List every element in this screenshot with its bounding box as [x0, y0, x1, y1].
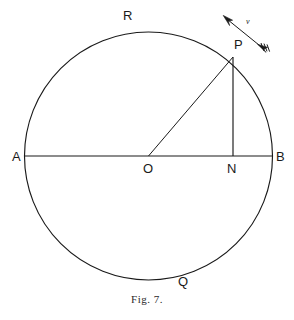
vertex-label-a: A: [12, 150, 21, 163]
vertex-label-q: Q: [178, 275, 188, 288]
vertex-label-r: R: [123, 9, 132, 22]
vertex-label-p: P: [234, 38, 243, 51]
vertex-label-b: B: [276, 150, 285, 163]
figure-container: A B O N P R Q v Fig. 7.: [0, 0, 294, 320]
figure-drawing-canvas: [0, 0, 294, 320]
figure-caption: Fig. 7.: [0, 294, 294, 305]
velocity-label-v: v: [246, 18, 250, 26]
velocity-arrow-feather-icon: [258, 43, 270, 52]
center-label-o: O: [143, 162, 153, 175]
velocity-arrowhead-icon: [223, 15, 232, 25]
radius-line-op: [149, 57, 234, 156]
vertex-label-n: N: [227, 162, 236, 175]
